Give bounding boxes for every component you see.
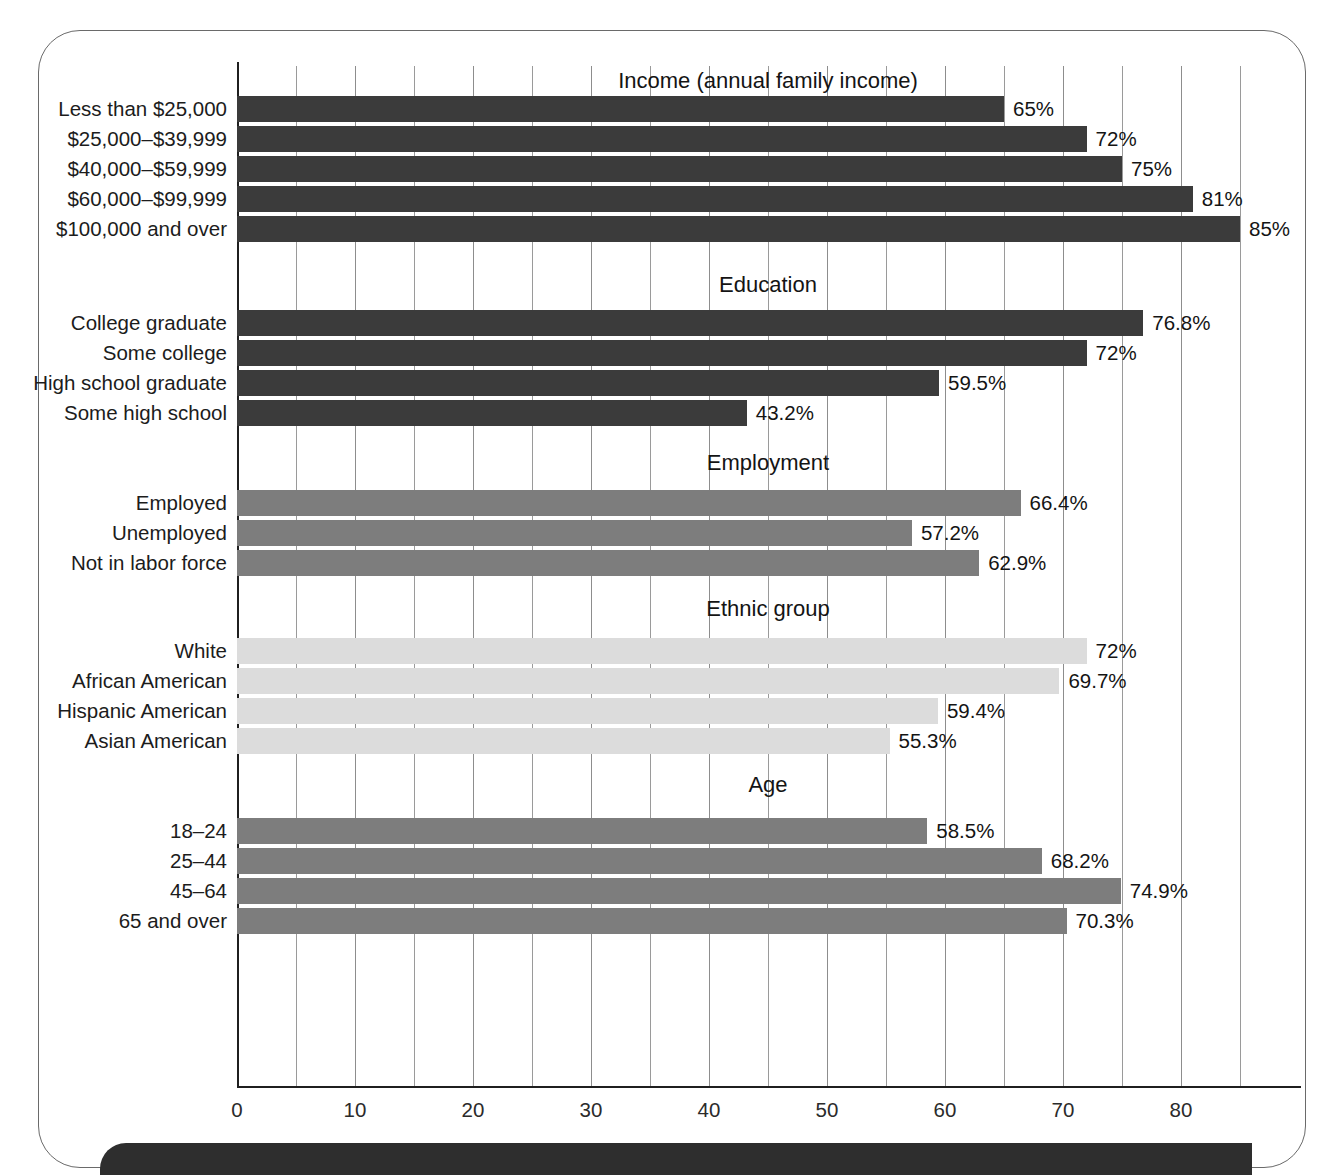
bar-value-label: 58.5% [936,818,994,844]
bar-asian-american [237,728,890,754]
bar-value-label: 69.7% [1068,668,1126,694]
bar-row [237,216,1240,242]
x-tick-0: 0 [207,1098,267,1122]
gridline-85 [1240,66,1241,1086]
bar-value-label: 85% [1249,216,1290,242]
bar-25-000-39-999 [237,126,1087,152]
bar-value-label: 75% [1131,156,1172,182]
bar-45-64 [237,878,1121,904]
bar-value-label: 72% [1096,340,1137,366]
bar-row [237,96,1004,122]
category-label: $100,000 and over [56,216,227,242]
category-label: Some high school [64,400,227,426]
bar-100-000-and-over [237,216,1240,242]
bar-value-label: 74.9% [1130,878,1188,904]
category-label: 18–24 [170,818,227,844]
bar-row [237,186,1193,212]
bar-value-label: 59.4% [947,698,1005,724]
bar-row [237,340,1087,366]
section-title-income-annual-family-income: Income (annual family income) [237,68,1299,94]
bar-row [237,156,1122,182]
bar-18-24 [237,818,927,844]
section-title-age: Age [237,772,1299,798]
x-tick-40: 40 [679,1098,739,1122]
x-tick-50: 50 [797,1098,857,1122]
bar-60-000-99-999 [237,186,1193,212]
bar-college-graduate [237,310,1143,336]
bar-25-44 [237,848,1042,874]
category-label: Not in labor force [71,550,227,576]
category-label: Unemployed [112,520,227,546]
bar-40-000-59-999 [237,156,1122,182]
bar-row [237,878,1121,904]
bar-some-college [237,340,1087,366]
bar-unemployed [237,520,912,546]
x-axis-line [237,1086,1301,1088]
bar-value-label: 59.5% [948,370,1006,396]
bar-row [237,126,1087,152]
bar-hispanic-american [237,698,938,724]
bar-row [237,550,979,576]
bar-row [237,370,939,396]
bar-high-school-graduate [237,370,939,396]
x-tick-30: 30 [561,1098,621,1122]
category-label: Employed [136,490,227,516]
category-label: $25,000–$39,999 [67,126,227,152]
section-title-employment: Employment [237,450,1299,476]
bar-value-label: 76.8% [1152,310,1210,336]
bar-row [237,848,1042,874]
bar-row [237,818,927,844]
category-label: 45–64 [170,878,227,904]
bar-value-label: 57.2% [921,520,979,546]
category-label: 25–44 [170,848,227,874]
bar-row [237,668,1059,694]
category-label: 65 and over [119,908,227,934]
bar-row [237,520,912,546]
category-label: Less than $25,000 [58,96,227,122]
x-tick-60: 60 [915,1098,975,1122]
bar-less-than-25-000 [237,96,1004,122]
bottom-dark-band [100,1143,1252,1175]
bar-65-and-over [237,908,1067,934]
bar-value-label: 70.3% [1076,908,1134,934]
bar-employed [237,490,1021,516]
x-tick-10: 10 [325,1098,385,1122]
x-tick-70: 70 [1033,1098,1093,1122]
bar-row [237,908,1067,934]
bar-chart: Income (annual family income)Less than $… [0,0,1340,1175]
bar-row [237,698,938,724]
bar-value-label: 55.3% [899,728,957,754]
category-label: Hispanic American [57,698,227,724]
bar-value-label: 68.2% [1051,848,1109,874]
bar-row [237,638,1087,664]
bar-row [237,310,1143,336]
category-label: $40,000–$59,999 [67,156,227,182]
bar-value-label: 43.2% [756,400,814,426]
bar-row [237,490,1021,516]
bar-some-high-school [237,400,747,426]
bar-not-in-labor-force [237,550,979,576]
category-label: $60,000–$99,999 [67,186,227,212]
section-title-ethnic-group: Ethnic group [237,596,1299,622]
x-tick-80: 80 [1151,1098,1211,1122]
bar-value-label: 72% [1096,638,1137,664]
bar-african-american [237,668,1059,694]
category-label: Some college [103,340,227,366]
bar-white [237,638,1087,664]
bar-row [237,728,890,754]
bar-row [237,400,747,426]
bar-value-label: 62.9% [988,550,1046,576]
bar-value-label: 81% [1202,186,1243,212]
x-tick-20: 20 [443,1098,503,1122]
bar-value-label: 72% [1096,126,1137,152]
category-label: White [175,638,227,664]
category-label: High school graduate [33,370,227,396]
bar-value-label: 66.4% [1030,490,1088,516]
category-label: College graduate [71,310,227,336]
category-label: Asian American [85,728,227,754]
category-label: African American [72,668,227,694]
section-title-education: Education [237,272,1299,298]
bar-value-label: 65% [1013,96,1054,122]
